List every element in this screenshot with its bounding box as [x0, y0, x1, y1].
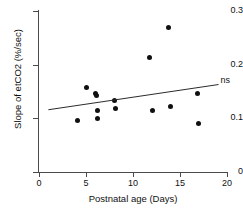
regression-line [0, 0, 243, 209]
x-axis-title: Postnatal age (Days) [38, 194, 228, 204]
scatter-plot: 00.10.20.3 05101520 ns Slope of etCO2 (%… [0, 0, 243, 209]
ns-annotation: ns [221, 76, 231, 85]
y-axis-title: Slope of etCO2 (%/sec) [13, 9, 23, 149]
